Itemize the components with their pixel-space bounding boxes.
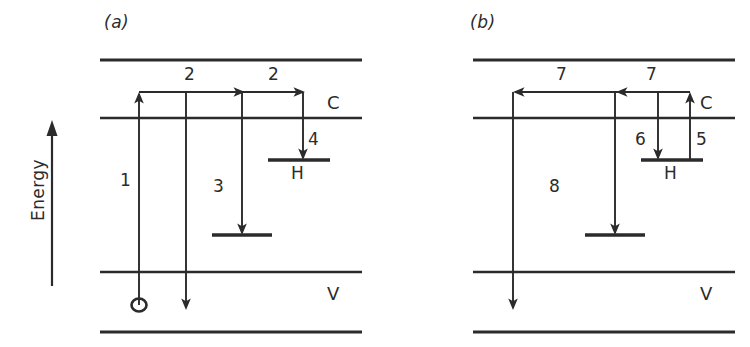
- panel-b-transition-7b-label: 7: [646, 64, 657, 84]
- figure-canvas: Energy: [0, 0, 750, 347]
- panel-a-tag: (a): [104, 12, 129, 32]
- panel-b-conduction-label: C: [700, 92, 713, 113]
- panel-b-transitions: [513, 92, 690, 308]
- panel-a-hole-trap-label: H: [291, 163, 304, 183]
- panel-a-transition-2a-label: 2: [184, 64, 195, 84]
- panel-b-tag: (b): [470, 12, 496, 32]
- panel-a-transition-1-label: 1: [120, 170, 131, 190]
- panel-a-valence-label: V: [327, 283, 339, 304]
- panel-a-transition-3-label: 3: [213, 176, 224, 196]
- panel-a-transition-4-label: 4: [308, 129, 319, 149]
- panel-b-transition-6-label: 6: [635, 129, 646, 149]
- panel-b-localized-levels: [585, 160, 703, 235]
- panel-b-transition-7a-label: 7: [556, 64, 567, 84]
- panel-b-transition-8-label: 8: [549, 176, 560, 196]
- panel-a-transition-2b-label: 2: [268, 64, 279, 84]
- band-diagram-svg: [0, 0, 750, 347]
- panel-b-valence-label: V: [700, 283, 712, 304]
- panel-a-conduction-label: C: [327, 92, 340, 113]
- panel-a-transitions: [132, 92, 304, 312]
- panel-b-hole-trap-label: H: [664, 163, 677, 183]
- panel-b-transition-5-label: 5: [696, 129, 707, 149]
- panel-a-localized-levels: [212, 160, 330, 235]
